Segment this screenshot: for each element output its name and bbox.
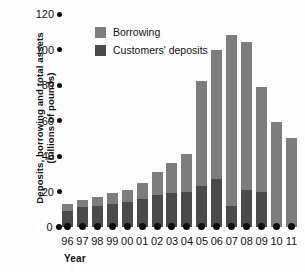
bar-segment-borrowing[interactable] bbox=[181, 154, 192, 191]
bar-segment-borrowing[interactable] bbox=[241, 42, 252, 189]
y-axis-tick: 60 bbox=[42, 115, 62, 127]
y-axis-tick-label: 120 bbox=[36, 8, 54, 20]
bar-segment-borrowing[interactable] bbox=[107, 193, 118, 204]
x-axis-tick-marker bbox=[198, 223, 205, 230]
x-axis-tick-marker bbox=[183, 223, 190, 230]
bar-segment-borrowing[interactable] bbox=[77, 200, 88, 207]
x-axis-tick-dots bbox=[62, 223, 297, 230]
bar-segment-customers-deposits[interactable] bbox=[211, 179, 222, 227]
x-axis-tick-marker bbox=[64, 223, 71, 230]
bar-segment-borrowing[interactable] bbox=[62, 204, 73, 211]
x-axis-tick-marker bbox=[213, 223, 220, 230]
y-axis-tick: 100 bbox=[36, 44, 62, 56]
x-axis-tick-label: 98 bbox=[90, 235, 105, 247]
bar-segment-borrowing[interactable] bbox=[211, 50, 222, 180]
y-axis-tick-label: 40 bbox=[42, 150, 54, 162]
y-axis-tick-label: 20 bbox=[42, 186, 54, 198]
bar-segment-borrowing[interactable] bbox=[122, 190, 133, 202]
x-axis-tick-cell bbox=[241, 223, 252, 230]
bar-column[interactable] bbox=[271, 14, 282, 227]
bar-column[interactable] bbox=[226, 14, 237, 227]
x-axis-tick-marker bbox=[109, 223, 116, 230]
bar-segment-borrowing[interactable] bbox=[271, 122, 282, 227]
bar-segment-borrowing[interactable] bbox=[226, 35, 237, 205]
bar-segment-borrowing[interactable] bbox=[166, 163, 177, 193]
bar-segment-borrowing[interactable] bbox=[286, 138, 297, 227]
y-axis-tick: 120 bbox=[36, 8, 62, 20]
legend-item-label: Borrowing bbox=[113, 26, 160, 38]
x-axis: 96979899000102030405060708091011 Year bbox=[62, 227, 297, 272]
x-axis-tick-cell bbox=[256, 223, 267, 230]
bar-segment-customers-deposits[interactable] bbox=[256, 192, 267, 228]
x-axis-tick-marker bbox=[124, 223, 131, 230]
x-axis-tick-cell bbox=[62, 223, 73, 230]
x-axis-tick-cell bbox=[166, 223, 177, 230]
y-axis-tick-label: 80 bbox=[42, 79, 54, 91]
x-axis-tick-marker bbox=[154, 223, 161, 230]
x-axis-tick-cell bbox=[196, 223, 207, 230]
bar-segment-borrowing[interactable] bbox=[152, 172, 163, 195]
x-axis-tick-label: 03 bbox=[165, 235, 180, 247]
x-axis-tick-label: 09 bbox=[254, 235, 269, 247]
y-axis-tick: 0 bbox=[46, 221, 62, 233]
x-axis-tick-cell bbox=[226, 223, 237, 230]
x-axis-tick-marker bbox=[258, 223, 265, 230]
legend-item-label: Customers' deposits bbox=[113, 44, 208, 56]
y-axis-tick-label: 0 bbox=[46, 221, 52, 233]
y-axis-ticks: 020406080100120 bbox=[0, 0, 62, 241]
y-axis-tick: 20 bbox=[42, 186, 62, 198]
x-axis-tick-label: 06 bbox=[209, 235, 224, 247]
x-axis-tick-label: 02 bbox=[150, 235, 165, 247]
x-axis-tick-marker bbox=[228, 223, 235, 230]
x-axis-tick-cell bbox=[152, 223, 163, 230]
bar-column[interactable] bbox=[241, 14, 252, 227]
x-axis-tick-cell bbox=[181, 223, 192, 230]
x-axis-tick-cell bbox=[286, 223, 297, 230]
bar-column[interactable] bbox=[62, 14, 73, 227]
bar-column[interactable] bbox=[77, 14, 88, 227]
x-axis-tick-label: 05 bbox=[194, 235, 209, 247]
x-axis-tick-label: 11 bbox=[284, 235, 299, 247]
x-axis-tick-label: 01 bbox=[135, 235, 150, 247]
legend-color-swatch bbox=[95, 45, 106, 56]
x-axis-tick-cell bbox=[137, 223, 148, 230]
x-axis-tick-marker bbox=[79, 223, 86, 230]
bar-segment-borrowing[interactable] bbox=[137, 183, 148, 199]
bar-segment-customers-deposits[interactable] bbox=[166, 193, 177, 227]
x-axis-tick-label: 99 bbox=[105, 235, 120, 247]
y-axis-tick-label: 60 bbox=[42, 115, 54, 127]
bar-segment-borrowing[interactable] bbox=[256, 87, 267, 192]
bar-column[interactable] bbox=[256, 14, 267, 227]
x-axis-tick-label: 00 bbox=[120, 235, 135, 247]
bar-column[interactable] bbox=[211, 14, 222, 227]
x-axis-tick-label: 96 bbox=[60, 235, 75, 247]
x-axis-tick-cell bbox=[92, 223, 103, 230]
y-axis-tick: 40 bbox=[42, 150, 62, 162]
legend-item[interactable]: Borrowing bbox=[95, 26, 208, 38]
x-axis-tick-label: 97 bbox=[75, 235, 90, 247]
legend-item[interactable]: Customers' deposits bbox=[95, 44, 208, 56]
bar-segment-customers-deposits[interactable] bbox=[241, 190, 252, 227]
bar-column[interactable] bbox=[286, 14, 297, 227]
bar-segment-customers-deposits[interactable] bbox=[196, 186, 207, 227]
x-axis-tick-cell bbox=[122, 223, 133, 230]
x-axis-tick-cell bbox=[107, 223, 118, 230]
x-axis-tick-marker bbox=[243, 223, 250, 230]
x-axis-tick-marker bbox=[139, 223, 146, 230]
x-axis-tick-cell bbox=[77, 223, 88, 230]
x-axis-tick-label: 10 bbox=[269, 235, 284, 247]
x-axis-tick-cell bbox=[271, 223, 282, 230]
y-axis-tick-label: 100 bbox=[36, 44, 54, 56]
y-axis-tick: 80 bbox=[42, 79, 62, 91]
bar-segment-customers-deposits[interactable] bbox=[181, 192, 192, 228]
x-axis-tick-labels: 96979899000102030405060708091011 bbox=[60, 235, 299, 247]
x-axis-tick-marker bbox=[94, 223, 101, 230]
bar-chart-figure: Deposits, borrowing and total assets (bi… bbox=[0, 0, 305, 272]
x-axis-tick-cell bbox=[211, 223, 222, 230]
bar-segment-borrowing[interactable] bbox=[196, 81, 207, 186]
x-axis-tick-label: 04 bbox=[180, 235, 195, 247]
x-axis-tick-label: 07 bbox=[224, 235, 239, 247]
x-axis-tick-marker bbox=[168, 223, 175, 230]
bar-segment-borrowing[interactable] bbox=[92, 197, 103, 206]
x-axis-title: Year bbox=[64, 253, 86, 264]
